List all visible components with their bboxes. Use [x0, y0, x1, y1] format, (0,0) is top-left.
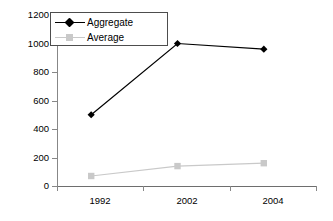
line-chart: 020040060080010001200 199220022004 Aggre…: [0, 0, 333, 221]
legend-swatch-average: [51, 31, 87, 45]
data-point-square: [88, 173, 94, 179]
legend-swatch-aggregate: [51, 16, 87, 30]
data-point-diamond: [260, 46, 267, 53]
square-marker-icon: [66, 34, 73, 41]
series-line-aggregate: [91, 44, 264, 115]
data-point-square: [174, 163, 180, 169]
legend-label-aggregate: Aggregate: [87, 17, 133, 28]
legend-entry-aggregate: Aggregate: [51, 15, 167, 30]
diamond-marker-icon: [65, 17, 75, 27]
legend-label-average: Average: [87, 32, 124, 43]
data-point-square: [261, 160, 267, 166]
legend: Aggregate Average: [50, 12, 168, 46]
legend-entry-average: Average: [51, 30, 167, 45]
